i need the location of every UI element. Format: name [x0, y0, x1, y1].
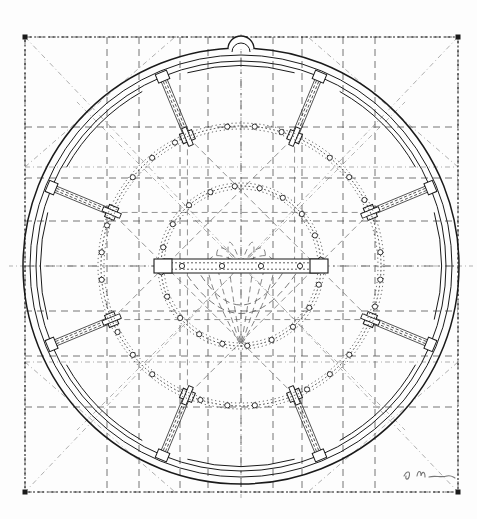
ring-a-bolt-3 [347, 175, 352, 180]
ring-a-bolt-12 [304, 387, 309, 392]
ring-a-bolt-18 [150, 372, 155, 377]
ring-a-bolt-6 [378, 250, 383, 255]
ring-b-bolt-17 [186, 203, 191, 208]
hub-bolt-3 [258, 263, 263, 268]
ring-b-bolt-15 [161, 245, 166, 250]
ring-b-bolt-2 [299, 211, 304, 216]
central-hub-bar [163, 259, 319, 273]
ring-a-bolt-28 [172, 140, 177, 145]
ring-a-bolt-11 [327, 372, 332, 377]
ring-a-bolt-27 [150, 155, 155, 160]
ring-a-bolt-10 [347, 352, 352, 357]
ring-a-bolt-26 [130, 175, 135, 180]
ring-b-bolt-11 [197, 332, 202, 337]
border-corner-mark-3 [23, 490, 28, 495]
ring-b-bolt-19 [232, 184, 237, 189]
ring-a-bolt-23 [99, 250, 104, 255]
ring-a-bolt-22 [99, 277, 104, 282]
ring-a-bolt-32 [279, 129, 284, 134]
ring-a-bolt-14 [252, 403, 257, 408]
ring-b-bolt-12 [178, 315, 183, 320]
ring-a-bolt-2 [327, 155, 332, 160]
ring-a-bolt-7 [378, 277, 383, 282]
ring-b-bolt-16 [170, 222, 175, 227]
hub-end-block-2 [310, 259, 328, 273]
drawing-sheet: Circular Wheel / Dome Framing Plan Geome… [0, 0, 477, 519]
ring-a-bolt-30 [225, 124, 230, 129]
hub-bolt-1 [179, 263, 184, 268]
hub-end-block-1 [154, 259, 172, 273]
border-corner-mark-4 [456, 490, 461, 495]
ring-b-bolt-5 [316, 282, 321, 287]
ring-b-bolt-7 [290, 324, 295, 329]
ring-b-bolt-13 [164, 294, 169, 299]
ring-b-bolt-8 [269, 337, 274, 342]
ring-b-bolt-10 [220, 341, 225, 346]
ring-a-bolt-16 [198, 397, 203, 402]
ring-a-bolt-15 [225, 403, 230, 408]
hub-bolt-2 [219, 263, 224, 268]
ring-a-bolt-20 [115, 329, 120, 334]
ring-b-bolt-18 [208, 189, 213, 194]
ring-a-bolt-24 [104, 223, 109, 228]
ring-a-bolt-4 [362, 197, 367, 202]
ring-b-bolt-20 [257, 186, 262, 191]
border-corner-mark-1 [23, 35, 28, 40]
ring-b-bolt-1 [280, 195, 285, 200]
ring-b-bolt-3 [312, 233, 317, 238]
ring-b-bolt-9 [245, 343, 250, 348]
technical-drawing-canvas [0, 0, 477, 519]
central-hub-group [154, 259, 328, 273]
ring-a-bolt-31 [252, 124, 257, 129]
ring-a-bolt-8 [372, 304, 377, 309]
hub-bolt-4 [297, 263, 302, 268]
ring-a-bolt-19 [130, 352, 135, 357]
ring-b-bolt-6 [307, 305, 312, 310]
border-corner-mark-2 [456, 35, 461, 40]
